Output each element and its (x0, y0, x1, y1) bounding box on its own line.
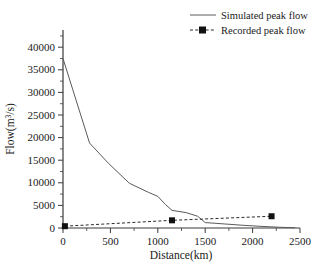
y-tick-label-5000: 5000 (33, 199, 56, 211)
svg-text:Flow(m3/s): Flow(m3/s) (4, 103, 18, 155)
x-tick-label-2000: 2000 (242, 235, 265, 247)
x-axis-title: Distance(km) (150, 249, 213, 262)
y-tick-label-15000: 15000 (28, 154, 56, 166)
y-tick-label-25000: 25000 (28, 109, 56, 121)
flow-vs-distance-chart: Simulated peak flow Recorded peak flow (0, 0, 330, 274)
recorded-marker-1 (169, 217, 175, 223)
legend-label-recorded: Recorded peak flow (221, 25, 306, 36)
x-tick-labels: 0 500 1000 1500 2000 2500 (60, 235, 311, 247)
chart-container: Simulated peak flow Recorded peak flow (0, 0, 330, 274)
y-axis-title-main: Flow(m (4, 118, 17, 154)
y-tick-label-10000: 10000 (28, 176, 56, 188)
x-axis-ticks (63, 228, 300, 233)
y-tick-label-0: 0 (50, 222, 56, 234)
y-tick-label-35000: 35000 (28, 63, 56, 75)
y-tick-labels: 0 5000 10000 15000 20000 25000 30000 350… (28, 41, 56, 234)
x-tick-label-0: 0 (60, 235, 66, 247)
recorded-marker-2 (269, 213, 275, 219)
y-tick-label-40000: 40000 (28, 41, 56, 53)
x-tick-label-500: 500 (102, 235, 119, 247)
x-tick-label-2500: 2500 (289, 235, 312, 247)
legend-marker-recorded (199, 27, 206, 34)
simulated-peak-flow-line (63, 59, 295, 228)
y-axis-title: Flow(m3/s) (4, 103, 18, 155)
y-tick-label-30000: 30000 (28, 86, 56, 98)
x-tick-label-1500: 1500 (194, 235, 217, 247)
series-simulated-peak-flow (63, 59, 295, 228)
legend: Simulated peak flow Recorded peak flow (190, 10, 308, 36)
y-tick-label-20000: 20000 (28, 131, 56, 143)
x-tick-label-1000: 1000 (147, 235, 170, 247)
series-recorded-peak-flow (62, 213, 275, 229)
y-axis-ticks (58, 36, 63, 228)
y-axis-title-tail: /s) (4, 103, 17, 115)
recorded-marker-0 (62, 223, 68, 229)
legend-label-simulated: Simulated peak flow (221, 10, 308, 21)
